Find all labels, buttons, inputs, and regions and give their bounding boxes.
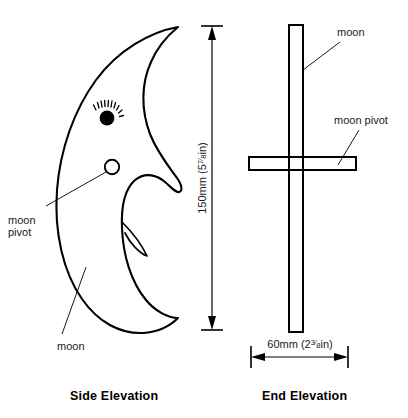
callout-moon-pivot-end: moon pivot (334, 114, 388, 126)
eye-icon (100, 111, 115, 126)
drawing-canvas: moon pivot moon Side Elevation 150mm (57… (0, 0, 408, 418)
dim-width-in-unit: in (320, 338, 329, 350)
moon-bar-end (289, 25, 303, 332)
callout-moon-pivot-line2: pivot (8, 226, 31, 238)
dim-width-label: 60mm (23⁄8in) (267, 338, 332, 350)
moon-pivot-hole (105, 160, 119, 174)
callout-moon-pivot-line1: moon (8, 214, 36, 226)
caption-side-elevation: Side Elevation (70, 389, 158, 403)
dim-height-in-unit: in (196, 146, 208, 155)
dim-height-mm: 150mm (196, 177, 208, 214)
callout-moon-side: moon (57, 340, 85, 352)
caption-end-elevation: End Elevation (262, 389, 347, 403)
dim-width-mm: 60mm (267, 338, 298, 350)
dim-height-label: 150mm (57⁄8in) (196, 142, 208, 214)
callout-moon-end: moon (337, 26, 365, 38)
technical-drawing-page: moon pivot moon Side Elevation 150mm (57… (0, 0, 408, 418)
